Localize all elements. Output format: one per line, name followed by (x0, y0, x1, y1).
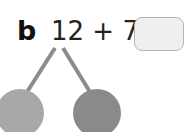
right-branch-line (63, 48, 90, 92)
right-part-circle[interactable] (73, 89, 121, 132)
number-bond-diagram (0, 0, 193, 132)
left-branch-line (27, 48, 55, 92)
left-part-circle[interactable] (0, 89, 44, 132)
